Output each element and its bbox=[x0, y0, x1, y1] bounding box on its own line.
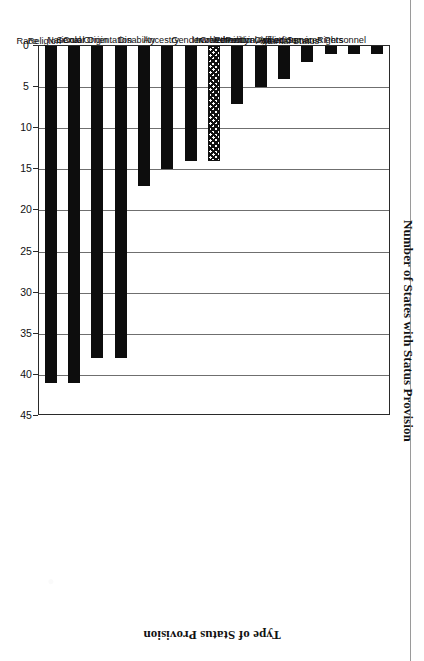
axis-tick bbox=[33, 332, 38, 333]
axis-tick bbox=[33, 168, 38, 169]
axis-tick-label: 20 bbox=[20, 203, 32, 215]
bar bbox=[301, 46, 313, 62]
bar-chart: 051015202530354045 Involvement in Armed … bbox=[22, 31, 402, 631]
axis-tick-label: 45 bbox=[20, 409, 32, 421]
bar-slot bbox=[366, 46, 389, 414]
bar-slot bbox=[272, 46, 295, 414]
bar-slot bbox=[319, 46, 342, 414]
value-axis: 051015202530354045 bbox=[12, 45, 38, 415]
bar bbox=[91, 46, 103, 358]
bar bbox=[115, 46, 127, 358]
bar-series bbox=[39, 46, 389, 414]
bar bbox=[348, 46, 360, 54]
bar bbox=[208, 46, 220, 161]
category-label: Race bbox=[16, 36, 37, 45]
plot-area-wrapper: 051015202530354045 Involvement in Armed … bbox=[38, 45, 390, 415]
bar bbox=[278, 46, 290, 79]
bar bbox=[138, 46, 150, 186]
bar bbox=[255, 46, 267, 87]
bar bbox=[45, 46, 57, 383]
bar bbox=[325, 46, 337, 54]
axis-tick bbox=[33, 250, 38, 251]
axis-tick bbox=[33, 86, 38, 87]
plot-frame bbox=[38, 45, 390, 415]
category-axis-title: Type of Status Provision bbox=[143, 627, 280, 643]
bar-slot bbox=[342, 46, 365, 414]
value-axis-title: Number of States with Status Provision bbox=[400, 220, 416, 442]
bar-slot bbox=[226, 46, 249, 414]
bar-slot bbox=[156, 46, 179, 414]
axis-tick-label: 30 bbox=[20, 285, 32, 297]
bar-slot bbox=[296, 46, 319, 414]
bar bbox=[185, 46, 197, 161]
bar-slot bbox=[62, 46, 85, 414]
bar bbox=[68, 46, 80, 383]
bar-slot bbox=[86, 46, 109, 414]
axis-tick bbox=[33, 209, 38, 210]
category-label: Creed bbox=[200, 36, 225, 45]
axis-tick-label: 10 bbox=[20, 121, 32, 133]
axis-tick bbox=[33, 291, 38, 292]
axis-tick-label: 40 bbox=[20, 367, 32, 379]
bar-slot bbox=[249, 46, 272, 414]
category-label: Color bbox=[63, 36, 85, 45]
bar bbox=[371, 46, 383, 54]
axis-tick bbox=[33, 127, 38, 128]
category-label: Age bbox=[256, 36, 272, 45]
bar-slot bbox=[39, 46, 62, 414]
axis-tick-label: 35 bbox=[20, 326, 32, 338]
axis-tick bbox=[33, 373, 38, 374]
bar-slot bbox=[202, 46, 225, 414]
bar bbox=[231, 46, 243, 104]
bar-slot bbox=[132, 46, 155, 414]
bar bbox=[161, 46, 173, 169]
bar-slot bbox=[179, 46, 202, 414]
axis-tick bbox=[33, 415, 38, 416]
axis-tick-label: 15 bbox=[20, 162, 32, 174]
axis-tick-label: 5 bbox=[23, 80, 29, 92]
bar-slot bbox=[109, 46, 132, 414]
axis-tick-label: 25 bbox=[20, 244, 32, 256]
